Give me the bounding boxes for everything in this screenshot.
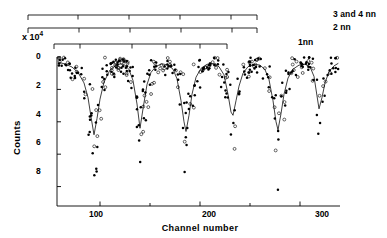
data-point-filled — [317, 133, 320, 136]
data-point-filled — [69, 77, 72, 80]
data-point-filled — [95, 168, 98, 171]
data-point-filled — [183, 102, 186, 105]
data-point-filled — [267, 76, 270, 79]
data-point-filled — [177, 78, 180, 81]
data-point-filled — [83, 97, 86, 100]
data-point-filled — [217, 59, 220, 62]
data-point-open — [310, 61, 313, 64]
data-point-filled — [109, 63, 112, 66]
figure-container: x 104 3 and 4 nn 2 nn 1nn 0 2 4 6 8 100 … — [0, 0, 387, 238]
data-point-filled — [285, 69, 288, 72]
data-point-filled — [103, 89, 106, 92]
data-point-filled — [144, 91, 147, 94]
data-point-filled — [285, 91, 288, 94]
data-point-filled — [106, 73, 109, 76]
data-point-open — [301, 72, 304, 75]
y-tick-label-0: 0 — [36, 52, 41, 61]
data-point-filled — [277, 130, 280, 133]
data-point-filled — [221, 76, 224, 79]
data-point-filled — [166, 63, 169, 66]
data-point-filled — [330, 62, 333, 64]
data-point-filled — [307, 68, 310, 71]
data-point-filled — [277, 189, 280, 192]
data-point-filled — [71, 72, 74, 75]
data-point-filled — [249, 57, 252, 60]
data-point-filled — [295, 74, 298, 77]
data-point-filled — [328, 69, 331, 72]
data-point-filled — [74, 77, 77, 80]
data-point-filled — [316, 114, 319, 117]
data-point-filled — [232, 122, 235, 125]
data-point-filled — [80, 73, 83, 76]
data-point-filled — [179, 103, 182, 106]
data-point-open — [176, 86, 179, 89]
data-point-filled — [113, 73, 116, 76]
data-point-filled — [257, 57, 260, 60]
data-point-open — [296, 76, 299, 79]
data-point-filled — [173, 64, 176, 67]
data-point-filled — [303, 56, 306, 59]
data-point-filled — [170, 65, 173, 68]
data-point-filled — [287, 73, 290, 76]
data-point-filled — [186, 127, 189, 130]
x-axis-title: Channel number — [162, 224, 239, 233]
data-point-filled — [330, 73, 333, 76]
y-tick-label-8: 8 — [36, 167, 41, 176]
data-point-filled — [256, 71, 259, 74]
data-point-filled — [58, 59, 61, 62]
data-point-open — [283, 101, 286, 104]
data-point-filled — [120, 67, 123, 70]
data-point-filled — [225, 73, 228, 76]
data-point-filled — [61, 59, 64, 62]
data-point-filled — [249, 64, 252, 67]
data-point-filled — [115, 59, 118, 62]
data-point-filled — [58, 62, 61, 65]
data-point-filled — [183, 171, 186, 174]
fit-curve — [60, 63, 338, 135]
data-point-filled — [131, 75, 134, 78]
data-point-filled — [316, 79, 319, 82]
data-point-filled — [312, 57, 315, 60]
data-point-filled — [227, 96, 230, 99]
data-point-filled — [166, 60, 169, 63]
data-point-filled — [194, 94, 197, 97]
data-point-filled — [65, 64, 68, 67]
data-point-filled — [196, 80, 199, 83]
data-point-filled — [164, 74, 167, 77]
axes-group — [57, 57, 340, 206]
data-point-filled — [132, 66, 135, 69]
data-point-filled — [307, 66, 310, 69]
data-point-filled — [106, 70, 109, 73]
data-point-filled — [89, 115, 92, 118]
data-point-filled — [68, 62, 71, 65]
bracket-outline-1 — [28, 28, 257, 33]
data-point-filled — [213, 64, 216, 67]
data-point-filled — [321, 100, 324, 103]
data-point-open — [183, 140, 186, 143]
bracket-2 — [54, 44, 227, 49]
data-point-filled — [69, 69, 72, 72]
data-point-filled — [291, 70, 294, 73]
axis-spine — [57, 57, 340, 206]
data-point-filled — [91, 152, 94, 155]
data-point-filled — [281, 81, 284, 84]
data-point-open — [291, 63, 294, 66]
data-point-open — [145, 100, 148, 103]
y-axis-title: Counts — [12, 120, 22, 155]
data-point-filled — [149, 84, 152, 87]
x-tick-label-200: 200 — [202, 210, 216, 219]
data-point-open — [233, 147, 236, 150]
data-point-filled — [188, 108, 191, 111]
data-point-filled — [182, 127, 185, 130]
data-point-open — [166, 57, 169, 60]
data-point-filled — [273, 97, 276, 100]
data-point-filled — [217, 63, 220, 66]
data-point-filled — [249, 69, 252, 72]
data-point-filled — [288, 88, 291, 91]
data-point-filled — [103, 78, 106, 81]
data-point-filled — [97, 104, 100, 107]
data-point-filled — [177, 73, 180, 76]
data-point-filled — [110, 71, 113, 74]
data-point-filled — [136, 108, 139, 111]
data-point-filled — [209, 62, 212, 64]
